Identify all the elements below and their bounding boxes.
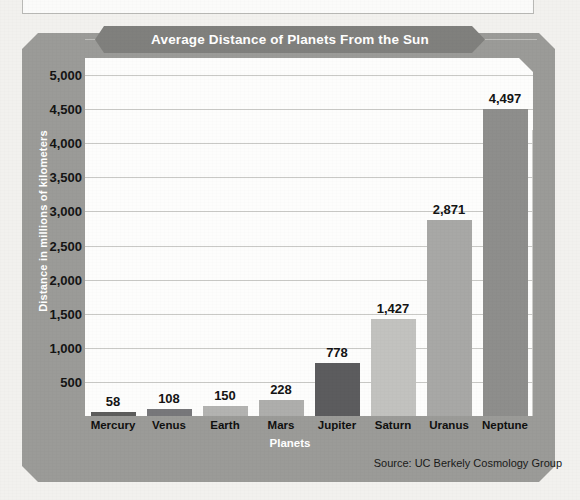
x-axis-title: Planets [0,437,580,449]
x-label-saturn: Saturn [365,419,421,431]
x-label-jupiter: Jupiter [309,419,365,431]
page-top-box [22,0,534,14]
source-note: Source: UC Berkely Cosmology Group [374,457,562,469]
y-tick-label: 3,500 [20,170,82,185]
bar-earth[interactable]: 150 [203,406,248,416]
banner-rule-right [481,39,537,40]
bars-layer: 581081502287781,4272,8714,497 [85,58,533,416]
y-tick-label: 2,000 [20,272,82,287]
chart-title: Average Distance of Planets From the Sun [151,32,429,47]
bar-mars[interactable]: 228 [259,400,304,416]
x-label-uranus: Uranus [421,419,477,431]
bar-value-label: 2,871 [427,202,472,217]
bar-value-label: 4,497 [483,91,528,106]
x-label-mars: Mars [253,419,309,431]
bar-neptune[interactable]: 4,497 [483,109,528,416]
y-tick-label: 2,500 [20,238,82,253]
y-tick-label: 1,500 [20,306,82,321]
bar-saturn[interactable]: 1,427 [371,319,416,416]
x-label-mercury: Mercury [85,419,141,431]
bar-value-label: 108 [147,391,192,406]
x-label-venus: Venus [141,419,197,431]
bar-jupiter[interactable]: 778 [315,363,360,416]
y-tick-label: 1,000 [20,340,82,355]
bar-value-label: 58 [91,394,136,409]
y-tick-label: 5,000 [20,68,82,83]
bar-mercury[interactable]: 58 [91,412,136,416]
y-axis-ticks: 5001,0001,5002,0002,5003,0003,5004,0004,… [22,0,82,500]
y-tick-label: 500 [20,374,82,389]
bar-value-label: 228 [259,382,304,397]
bar-value-label: 150 [203,388,248,403]
x-label-earth: Earth [197,419,253,431]
chart-title-banner: Average Distance of Planets From the Sun [95,26,485,53]
y-tick-label: 3,000 [20,204,82,219]
bar-value-label: 778 [315,345,360,360]
y-tick-label: 4,000 [20,136,82,151]
y-tick-label: 4,500 [20,102,82,117]
bar-value-label: 1,427 [371,301,416,316]
y-axis-title: Distance in millions of kilometers [37,96,49,346]
bar-uranus[interactable]: 2,871 [427,220,472,416]
x-axis-labels: MercuryVenusEarthMarsJupiterSaturnUranus… [85,419,533,437]
x-label-neptune: Neptune [477,419,533,431]
bar-venus[interactable]: 108 [147,409,192,416]
